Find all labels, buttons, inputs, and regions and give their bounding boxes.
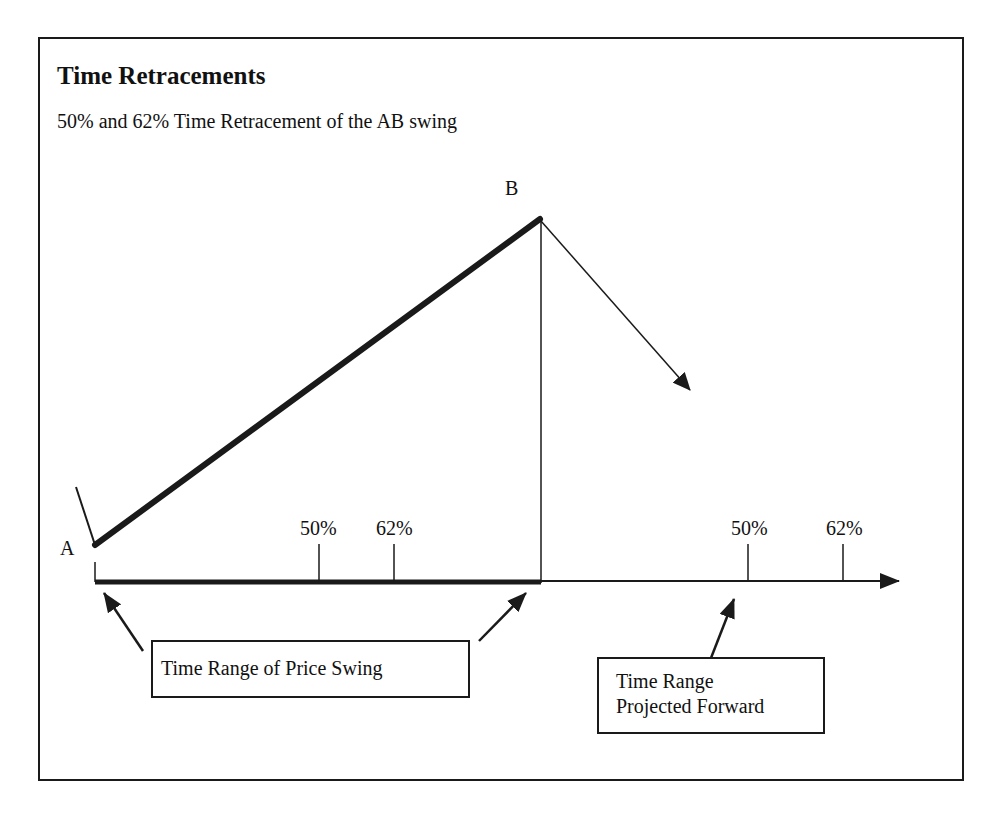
point-b-label: B: [505, 178, 518, 198]
diagram-canvas: [0, 0, 997, 821]
swing-tick-62-label: 62%: [376, 518, 413, 538]
swing-tick-50-label: 50%: [300, 518, 337, 538]
callout-arrow-swing-start: [104, 593, 143, 651]
projected-callout-box: Time Range Projected Forward: [597, 657, 825, 734]
projected-tick-62-label: 62%: [826, 518, 863, 538]
projected-tick-50-label: 50%: [731, 518, 768, 538]
callout-arrow-swing-end: [479, 593, 526, 641]
lead-in-line: [76, 487, 95, 545]
projected-callout-line2: Projected Forward: [616, 694, 823, 719]
callout-arrow-projected: [711, 599, 734, 658]
b-down-arrow: [541, 221, 690, 390]
ab-swing-line: [95, 219, 540, 545]
price-swing-callout-text: Time Range of Price Swing: [161, 657, 382, 679]
projected-callout-line1: Time Range: [616, 669, 823, 694]
point-a-label: A: [60, 538, 74, 558]
price-swing-callout-box: Time Range of Price Swing: [151, 640, 470, 698]
